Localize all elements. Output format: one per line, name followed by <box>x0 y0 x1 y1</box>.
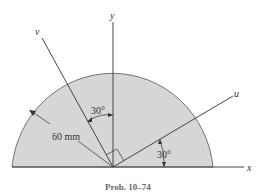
figure-caption: Prob. 10–74 <box>105 182 151 192</box>
angle-label-u-x: 30° <box>157 149 171 160</box>
u-axis-label: u <box>234 88 239 99</box>
x-axis-label: x <box>246 162 252 173</box>
v-axis-label: v <box>35 26 40 37</box>
dimension-label: 60 mm <box>52 131 80 142</box>
semicircle-diagram: y v u x 30° 30° 60 mm Prob. 10–74 <box>0 0 263 195</box>
angle-label-v-y: 30° <box>91 105 105 116</box>
y-axis-label: y <box>109 10 115 21</box>
